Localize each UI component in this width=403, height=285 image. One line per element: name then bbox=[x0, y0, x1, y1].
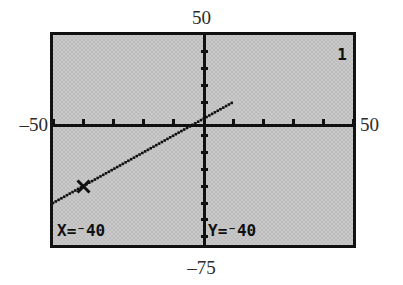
x-tick bbox=[262, 119, 265, 126]
window-xmin-label: –50 bbox=[4, 115, 48, 134]
window-xmax-label: 50 bbox=[360, 115, 402, 134]
x-tick bbox=[112, 119, 115, 126]
y-tick bbox=[201, 84, 208, 87]
y-tick bbox=[201, 185, 208, 188]
window-ymin-label: –75 bbox=[0, 258, 403, 277]
x-tick bbox=[82, 119, 85, 126]
window-ymax-label: 50 bbox=[0, 8, 403, 27]
y-tick bbox=[201, 101, 208, 104]
y-tick bbox=[201, 151, 208, 154]
y-tick bbox=[201, 168, 208, 171]
x-tick bbox=[352, 119, 355, 126]
y-tick bbox=[201, 218, 208, 221]
y-tick bbox=[201, 134, 208, 137]
x-tick bbox=[292, 119, 295, 126]
y-tick bbox=[201, 50, 208, 53]
x-tick bbox=[322, 119, 325, 126]
trace-cursor-icon bbox=[75, 178, 92, 195]
y-tick bbox=[201, 67, 208, 70]
x-tick bbox=[52, 119, 55, 126]
calculator-screen: X=⁻40 Y=⁻40 1 bbox=[50, 32, 356, 248]
graph-plot-area: X=⁻40 Y=⁻40 1 bbox=[53, 35, 353, 245]
x-tick bbox=[172, 119, 175, 126]
y-tick bbox=[201, 235, 208, 238]
trace-y-readout: Y=⁻40 bbox=[208, 223, 256, 239]
x-tick bbox=[232, 119, 235, 126]
trace-x-readout: X=⁻40 bbox=[57, 223, 105, 239]
y-tick bbox=[201, 202, 208, 205]
x-tick bbox=[142, 119, 145, 126]
function-number-indicator: 1 bbox=[337, 47, 347, 63]
